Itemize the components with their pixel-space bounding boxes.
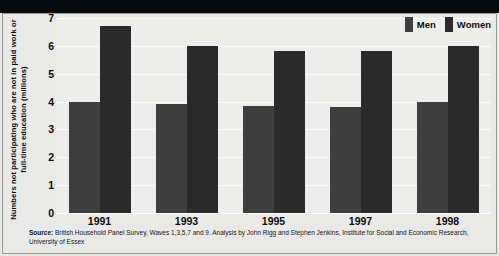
bar-women-1997	[361, 51, 392, 213]
gridline	[56, 213, 491, 214]
bar-group	[417, 18, 479, 213]
legend-swatch-women	[445, 17, 453, 32]
y-tick-label: 7	[32, 12, 54, 24]
y-tick-label: 5	[32, 68, 54, 80]
source-prefix: Source:	[29, 229, 53, 236]
y-tick-label: 2	[32, 151, 54, 163]
top-black-strip	[0, 0, 499, 13]
bar-women-1993	[187, 46, 218, 213]
source-note: Source: British Household Panel Survey, …	[29, 229, 490, 246]
x-tick-label-1998: 1998	[404, 215, 491, 227]
x-tick-label-1995: 1995	[230, 215, 317, 227]
bar-group	[156, 18, 218, 213]
chart-legend: MenWomen	[405, 15, 491, 33]
bar-group	[69, 18, 131, 213]
legend-label-men: Men	[417, 19, 436, 30]
y-tick-label: 0	[32, 207, 54, 219]
bar-women-1998	[448, 46, 479, 213]
bar-men-1991	[69, 102, 100, 213]
bar-men-1995	[243, 106, 274, 213]
source-note-wrap: Source: British Household Panel Survey, …	[3, 228, 496, 254]
bar-group	[330, 18, 392, 213]
y-tick-label: 3	[32, 123, 54, 135]
source-text: British Household Panel Survey, Waves 1,…	[29, 229, 468, 245]
legend-item-men: Men	[405, 17, 436, 32]
chart-figure: Numbers not participating who are not in…	[0, 0, 499, 256]
legend-item-women: Women	[445, 17, 491, 32]
bar-men-1997	[330, 107, 361, 213]
y-tick-label: 4	[32, 96, 54, 108]
x-tick-label-1991: 1991	[56, 215, 143, 227]
y-tick-label: 6	[32, 40, 54, 52]
x-tick-label-1997: 1997	[317, 215, 404, 227]
y-tick-label: 1	[32, 179, 54, 191]
bar-men-1993	[156, 104, 187, 213]
bar-women-1991	[100, 26, 131, 213]
bar-series-container	[56, 18, 491, 213]
y-axis-tick-labels: 01234567	[28, 18, 54, 213]
plot-area	[56, 18, 491, 213]
legend-label-women: Women	[457, 19, 491, 30]
bar-group	[243, 18, 305, 213]
x-tick-label-1993: 1993	[143, 215, 230, 227]
legend-swatch-men	[405, 17, 413, 32]
bar-men-1998	[417, 102, 448, 213]
bar-women-1995	[274, 51, 305, 213]
